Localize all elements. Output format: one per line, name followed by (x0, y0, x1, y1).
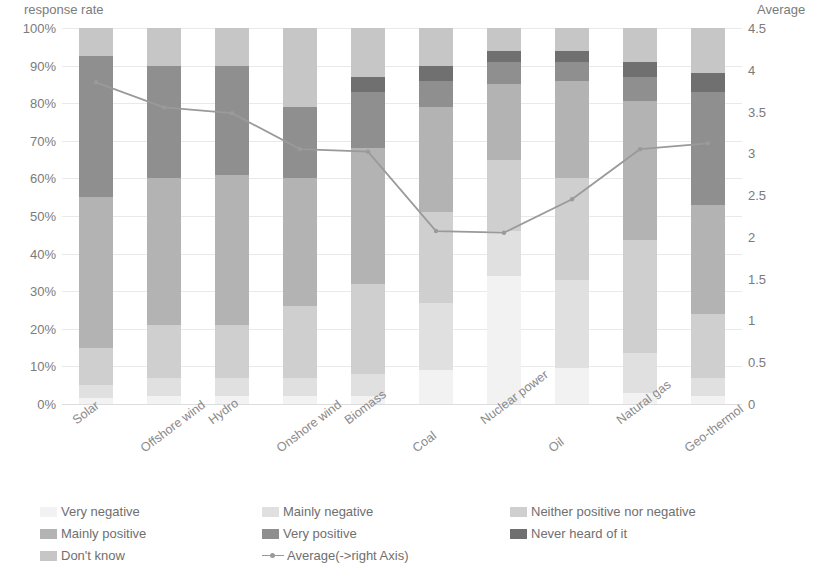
bar-segment[interactable] (283, 396, 317, 404)
bar-segment[interactable] (691, 314, 725, 378)
y-axis-tick-label: 40% (4, 248, 56, 261)
bar-segment[interactable] (351, 28, 385, 77)
bar-segment[interactable] (487, 51, 521, 62)
bar-segment[interactable] (351, 92, 385, 148)
bar-segment[interactable] (419, 28, 453, 66)
bar-segment[interactable] (215, 66, 249, 175)
bar-segment[interactable] (79, 56, 113, 197)
bar-segment[interactable] (487, 62, 521, 85)
left-axis-tick-labels: 0%10%20%30%40%50%60%70%80%90%100% (0, 28, 56, 404)
bar-segment[interactable] (623, 240, 657, 353)
legend-color-swatch (40, 507, 57, 517)
bar-segment[interactable] (147, 28, 181, 66)
legend-item[interactable]: Mainly negative (262, 505, 373, 518)
bar-segment[interactable] (215, 175, 249, 325)
y2-axis-tick-label: 0.5 (748, 356, 788, 369)
bar-column[interactable] (691, 28, 725, 404)
bar-segment[interactable] (555, 81, 589, 179)
bar-segment[interactable] (691, 205, 725, 314)
bar-segment[interactable] (623, 62, 657, 77)
y-axis-tick-label: 50% (4, 210, 56, 223)
category-label: Oil (546, 435, 567, 455)
legend-item[interactable]: Never heard of it (510, 527, 627, 540)
bar-segment[interactable] (555, 280, 589, 368)
y2-axis-tick-label: 3 (748, 147, 788, 160)
y-axis-tick-label: 10% (4, 360, 56, 373)
bar-segment[interactable] (147, 396, 181, 404)
y2-axis-tick-label: 2.5 (748, 189, 788, 202)
legend-item[interactable]: Very negative (40, 505, 140, 518)
bar-segment[interactable] (419, 81, 453, 107)
y2-axis-tick-label: 4 (748, 64, 788, 77)
bar-column[interactable] (283, 28, 317, 404)
bar-segment[interactable] (691, 73, 725, 92)
bar-segment[interactable] (419, 107, 453, 212)
bar-segment[interactable] (147, 378, 181, 397)
bar-segment[interactable] (147, 178, 181, 325)
legend-item[interactable]: Very positive (262, 527, 357, 540)
bar-segment[interactable] (79, 197, 113, 347)
bar-segment[interactable] (623, 77, 657, 101)
bar-segment[interactable] (215, 378, 249, 397)
bar-segment[interactable] (419, 370, 453, 404)
bar-segment[interactable] (419, 303, 453, 371)
bar-segment[interactable] (691, 28, 725, 73)
bar-column[interactable] (215, 28, 249, 404)
bar-segment[interactable] (215, 325, 249, 378)
bar-segment[interactable] (79, 348, 113, 386)
legend-label: Mainly negative (283, 505, 373, 518)
bar-segment[interactable] (691, 92, 725, 205)
legend-item[interactable]: Don't know (40, 549, 125, 562)
bar-column[interactable] (623, 28, 657, 404)
bar-segment[interactable] (147, 66, 181, 179)
bar-segment[interactable] (623, 28, 657, 62)
bar-column[interactable] (487, 28, 521, 404)
plot-area (62, 28, 742, 404)
bar-segment[interactable] (555, 51, 589, 62)
bar-segment[interactable] (691, 378, 725, 397)
category-label: Onshore wind (274, 398, 344, 456)
bar-segment[interactable] (691, 396, 725, 404)
legend-line-marker-icon (262, 551, 284, 561)
bar-segment[interactable] (555, 62, 589, 81)
bar-column[interactable] (147, 28, 181, 404)
left-axis-title: response rate (24, 2, 104, 17)
bar-segment[interactable] (283, 378, 317, 397)
category-label: Coal (410, 429, 439, 456)
bar-segment[interactable] (351, 148, 385, 283)
bar-segment[interactable] (487, 84, 521, 159)
bar-segment[interactable] (283, 306, 317, 377)
bar-segment[interactable] (79, 385, 113, 398)
category-label: Offshore wind (138, 398, 208, 455)
legend-label: Average(->right Axis) (287, 549, 409, 562)
bar-segment[interactable] (555, 28, 589, 51)
bar-segment[interactable] (487, 276, 521, 404)
bar-segment[interactable] (555, 178, 589, 280)
bar-segment[interactable] (351, 284, 385, 374)
chart-legend: Very negativeMainly negativeNeither posi… (40, 505, 780, 565)
bar-segment[interactable] (79, 28, 113, 56)
bar-column[interactable] (555, 28, 589, 404)
legend-color-swatch (40, 551, 57, 561)
bar-segment[interactable] (283, 107, 317, 178)
bar-segment[interactable] (215, 28, 249, 66)
legend-item[interactable]: Neither positive nor negative (510, 505, 696, 518)
bar-column[interactable] (79, 28, 113, 404)
legend-item[interactable]: Average(->right Axis) (262, 549, 409, 562)
legend-label: Very positive (283, 527, 357, 540)
bar-segment[interactable] (487, 231, 521, 276)
bar-segment[interactable] (147, 325, 181, 378)
bar-segment[interactable] (487, 28, 521, 51)
legend-item[interactable]: Mainly positive (40, 527, 146, 540)
bar-column[interactable] (351, 28, 385, 404)
bar-column[interactable] (419, 28, 453, 404)
bar-segment[interactable] (419, 66, 453, 81)
bar-segment[interactable] (283, 28, 317, 107)
bar-segment[interactable] (487, 160, 521, 231)
bar-segment[interactable] (555, 368, 589, 404)
y-axis-tick-label: 70% (4, 135, 56, 148)
bar-segment[interactable] (419, 212, 453, 302)
bar-segment[interactable] (283, 178, 317, 306)
bar-segment[interactable] (351, 77, 385, 92)
bar-segment[interactable] (623, 101, 657, 240)
